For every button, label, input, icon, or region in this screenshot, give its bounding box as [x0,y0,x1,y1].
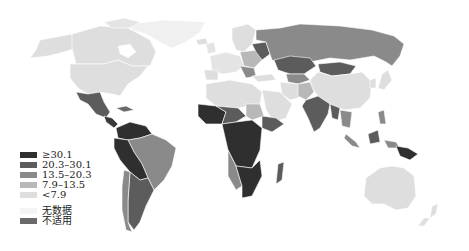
region-madagascar [276,162,284,184]
region-indochina [340,110,352,128]
region-scandinavia [232,24,256,52]
region-new-zealand-south [418,218,430,226]
region-borneo [368,130,380,144]
legend-swatch-level3 [20,172,37,178]
legend-label: 不适用 [42,216,72,226]
legend-swatch-no-data [20,208,37,214]
region-kazakhstan [274,56,316,74]
region-japan [378,70,392,90]
region-new-zealand [430,204,438,218]
region-caribbean [116,106,134,112]
legend-swatch-level2 [20,182,37,188]
region-papua [396,146,418,160]
region-australia [364,166,416,210]
region-alaska [30,34,76,58]
region-iberia [204,70,218,80]
legend-item: 不适用 [20,216,92,226]
legend-swatch-level4 [20,162,37,168]
region-sudan [246,104,264,120]
legend-label: <7.9 [42,190,66,200]
legend-item: <7.9 [20,190,92,200]
legend-swatch-not-applicable [20,218,37,224]
legend-swatch-level5 [20,152,37,158]
region-philippines [378,110,386,124]
region-korea [370,78,376,88]
region-mexico [76,92,110,118]
region-india [302,96,330,132]
region-central-america [104,116,118,128]
region-sumatra [344,134,360,148]
legend-swatch-level1 [20,192,37,198]
map-legend: ≥30.1 20.3–30.1 13.5–20.3 7.9–13.5 <7.9 … [20,150,92,226]
region-uk [206,42,216,54]
